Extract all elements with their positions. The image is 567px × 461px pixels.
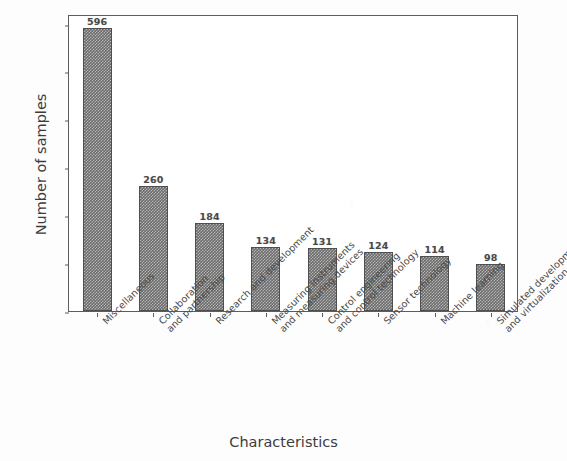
x-tick-mark <box>210 313 211 317</box>
bar[interactable] <box>83 28 112 311</box>
x-axis-title: Characteristics <box>0 434 567 450</box>
bar[interactable] <box>139 186 168 311</box>
bar-value-label: 596 <box>87 16 107 27</box>
x-tick-label: Measuring instruments and measuring devi… <box>269 318 285 334</box>
bar-group[interactable]: 596 <box>69 16 125 311</box>
x-tick-mark <box>491 313 492 317</box>
x-tick-mark <box>97 313 98 317</box>
x-tick-label: Collaboration and partnership <box>157 318 173 334</box>
x-tick-label: Sensor technology <box>382 318 390 326</box>
bar-value-label: 260 <box>143 174 163 185</box>
x-tick-mark <box>435 313 436 317</box>
bar-value-label: 124 <box>368 240 388 251</box>
x-tick-mark <box>153 313 154 317</box>
x-tick-mark <box>322 313 323 317</box>
bar-group[interactable]: 260 <box>125 16 181 311</box>
bar-value-label: 114 <box>424 244 444 255</box>
x-tick-mark <box>378 313 379 317</box>
bar-series: 59626018413413112411498 <box>69 16 517 311</box>
x-tick-mark <box>266 313 267 317</box>
bar-group[interactable]: 184 <box>182 16 238 311</box>
bar-chart-figure: 0100200300400500600 Number of samples 59… <box>0 0 567 461</box>
bar-value-label: 134 <box>256 235 276 246</box>
plot-area: 0100200300400500600 Number of samples 59… <box>68 15 518 312</box>
x-tick-label: Machine learning <box>438 318 446 326</box>
x-tick-label: Simulated development and virtualization <box>494 318 510 334</box>
bar-value-label: 184 <box>199 211 219 222</box>
y-tick-mark <box>65 313 69 314</box>
x-tick-label: Miscellaneous <box>100 318 108 326</box>
bar-value-label: 131 <box>312 236 332 247</box>
x-tick-label: Control engineering and control technolo… <box>325 318 341 334</box>
x-tick-label: Research and development <box>213 318 221 326</box>
y-axis-title: Number of samples <box>33 16 49 313</box>
